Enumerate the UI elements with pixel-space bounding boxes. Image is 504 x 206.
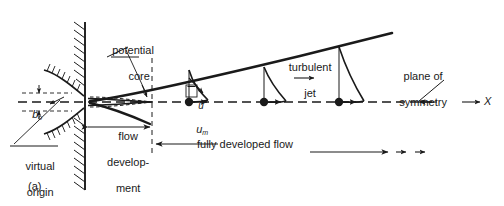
flow-dev-line3: ment (116, 182, 140, 194)
figure-turbulent-jet: potential core turbulent jet plane of sy… (0, 0, 504, 206)
potential-core-line1: potential (112, 44, 154, 56)
x-axis-label: X (484, 95, 491, 108)
velocity-profile (335, 47, 364, 106)
potential-core-line2: core (112, 70, 166, 83)
plane-of-symmetry-line2: symmetry (399, 96, 447, 108)
plane-of-symmetry-line1: plane of (404, 70, 443, 82)
flow-dev-line1: flow (118, 130, 138, 142)
turbulent-jet-label: turbulent jet (273, 48, 335, 113)
turbulent-jet-line1: turbulent (289, 61, 332, 73)
potential-core-label: potential core (100, 31, 154, 96)
centerline-velocity-subscript: m (202, 129, 208, 136)
turbulent-jet-line2: jet (304, 87, 316, 99)
centerline-velocity-label: um (184, 110, 208, 152)
slot-width-subscript: o (38, 114, 42, 121)
fully-developed-flow-label: fully developed flow (197, 138, 293, 151)
wall-hatching (74, 22, 85, 190)
plane-of-symmetry-label: plane of symmetry (382, 57, 452, 122)
nozzle-upper-hatching (47, 64, 80, 91)
slot-width-label: bo (20, 95, 42, 137)
flow-development-region-label: flow develop- ment region (94, 117, 150, 206)
virtual-origin-line1: virtual (25, 160, 54, 172)
virtual-origin-label: virtual origin (6, 147, 62, 206)
wall (74, 22, 85, 190)
panel-label: (a) (28, 180, 41, 193)
flow-dev-line2: develop- (107, 156, 149, 168)
